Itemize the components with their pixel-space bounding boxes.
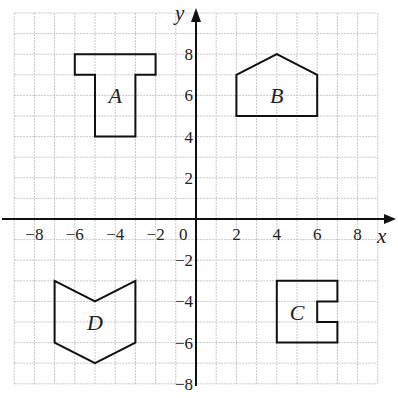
x-tick-label: 2 xyxy=(232,225,241,244)
y-tick-label: −6 xyxy=(175,334,193,353)
y-tick-label: 2 xyxy=(185,169,194,188)
origin-label: 0 xyxy=(179,225,188,244)
x-axis-label: x xyxy=(376,224,387,248)
y-tick-label: 8 xyxy=(185,45,194,64)
y-tick-label: −2 xyxy=(175,251,193,270)
y-tick-label: 4 xyxy=(185,128,194,147)
shape-b-label: B xyxy=(270,83,283,108)
y-tick-label: −4 xyxy=(175,292,194,311)
x-tick-label: −4 xyxy=(106,225,125,244)
shape-d-label: D xyxy=(86,310,103,335)
y-axis-arrow-icon xyxy=(191,8,201,22)
shape-b: B xyxy=(236,54,317,116)
x-tick-label: −8 xyxy=(25,225,43,244)
x-tick-label: 8 xyxy=(353,225,362,244)
y-axis-label: y xyxy=(173,1,185,25)
shape-a-label: A xyxy=(106,83,122,108)
x-tick-label: −6 xyxy=(66,225,84,244)
coordinate-grid: x y 0 −8−6−4−224688642−2−4−6−8 ABCD xyxy=(0,0,398,398)
y-tick-label: 6 xyxy=(185,86,194,105)
x-tick-label: −2 xyxy=(147,225,165,244)
x-axis-arrow-icon xyxy=(384,214,396,224)
y-tick-label: −8 xyxy=(175,375,193,394)
shape-c: C xyxy=(277,281,338,343)
x-tick-label: 6 xyxy=(313,225,322,244)
shape-c-outline xyxy=(277,281,338,343)
shape-c-label: C xyxy=(290,300,305,325)
x-tick-label: 4 xyxy=(273,225,282,244)
